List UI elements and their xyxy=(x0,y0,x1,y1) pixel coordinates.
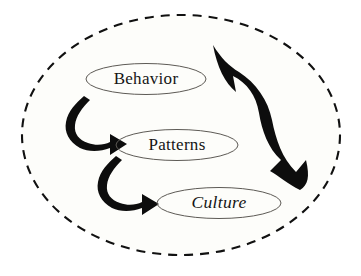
diagram-canvas: Behavior Patterns Culture xyxy=(0,0,361,276)
node-patterns-label: Patterns xyxy=(148,135,205,154)
node-behavior-label: Behavior xyxy=(114,69,179,88)
diagram-svg: Behavior Patterns Culture xyxy=(0,0,361,276)
node-culture-label: Culture xyxy=(192,192,247,212)
